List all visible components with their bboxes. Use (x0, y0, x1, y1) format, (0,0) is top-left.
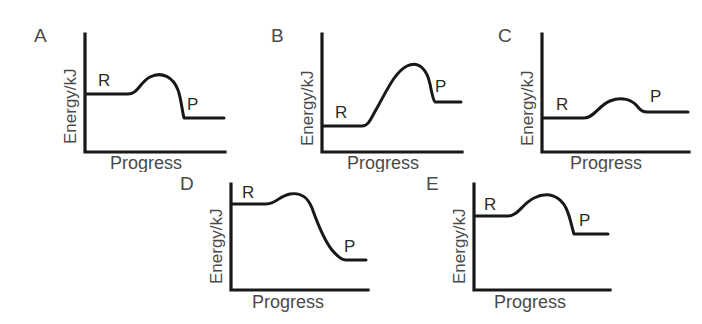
panel-e-label-r: R (484, 195, 496, 214)
panel-b-label-p: P (435, 77, 446, 96)
panel-b: B Energy/kJ Progress R P (265, 22, 465, 172)
panel-e-plot: Energy/kJ Progress R P (424, 172, 624, 320)
panel-e: E Energy/kJ Progress R P (424, 172, 624, 320)
panel-b-label-r: R (335, 103, 347, 122)
panel-d-plot: Energy/kJ Progress R P (176, 172, 376, 320)
panel-a: A Energy/kJ Progress R P (28, 22, 228, 172)
energy-profile-figure: A Energy/kJ Progress R P B Energy/kJ Pro… (0, 0, 702, 324)
panel-d: D Energy/kJ Progress R P (176, 172, 376, 320)
panel-d-label-p: P (344, 237, 355, 256)
panel-a-xlabel: Progress (110, 153, 182, 172)
panel-c: C Energy/kJ Progress R P (492, 22, 692, 172)
panel-a-label-p: P (187, 95, 198, 114)
panel-c-xlabel: Progress (570, 153, 642, 172)
panel-c-axes (542, 34, 689, 152)
panel-c-plot: Energy/kJ Progress R P (492, 22, 692, 172)
panel-c-label-p: P (650, 87, 661, 106)
panel-d-label-r: R (242, 183, 254, 202)
panel-d-ylabel: Energy/kJ (207, 208, 226, 284)
panel-e-label-p: P (579, 211, 590, 230)
panel-c-ylabel: Energy/kJ (518, 70, 537, 146)
panel-b-plot: Energy/kJ Progress R P (265, 22, 465, 172)
panel-a-label-r: R (98, 71, 110, 90)
panel-e-xlabel: Progress (494, 292, 566, 312)
panel-d-xlabel: Progress (252, 292, 324, 312)
panel-e-ylabel: Energy/kJ (450, 208, 469, 284)
panel-b-xlabel: Progress (347, 153, 419, 172)
panel-b-ylabel: Energy/kJ (298, 70, 317, 146)
panel-a-plot: Energy/kJ Progress R P (28, 22, 228, 172)
panel-c-label-r: R (556, 95, 568, 114)
panel-a-ylabel: Energy/kJ (61, 68, 80, 144)
